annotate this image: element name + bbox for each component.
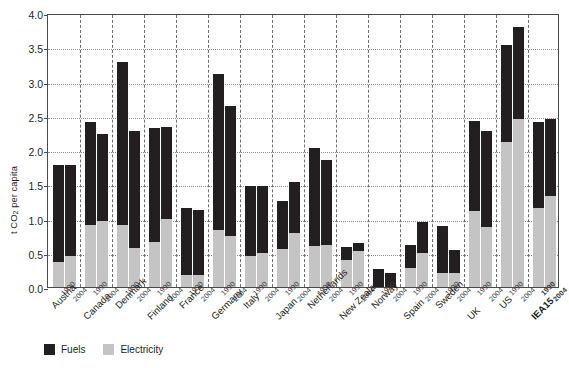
y-tick-mark	[44, 186, 48, 187]
bar-japan-2004	[289, 182, 300, 287]
bar-canada-1990	[85, 122, 96, 287]
legend-item-fuels: Fuels	[44, 344, 85, 355]
bar-segment-fuels	[225, 106, 236, 236]
group-separator	[80, 15, 81, 287]
bar-segment-fuels	[501, 45, 512, 143]
bar-segment-fuels	[97, 134, 108, 221]
bar-japan-1990	[277, 201, 288, 287]
group-separator	[496, 15, 497, 287]
bar-iea15-1990	[533, 122, 544, 287]
x-axis-category-label: IEA15	[529, 295, 556, 322]
bar-austria-2004	[65, 165, 76, 287]
y-tick-label: 2.0	[28, 146, 43, 158]
bar-segment-fuels	[513, 27, 524, 118]
y-tick-mark	[44, 255, 48, 256]
bar-segment-electricity	[437, 273, 448, 287]
plot-area: 0.00.51.01.52.02.53.03.54.0	[47, 14, 559, 288]
group-separator	[528, 15, 529, 287]
bar-segment-fuels	[533, 122, 544, 208]
bar-segment-electricity	[85, 225, 96, 287]
bar-segment-fuels	[321, 160, 332, 245]
bar-segment-fuels	[309, 148, 320, 246]
y-tick-label: 3.5	[28, 43, 43, 55]
x-axis-category-label: Japan	[273, 296, 299, 322]
bar-uk-1990	[469, 121, 480, 287]
bar-segment-fuels	[65, 165, 76, 256]
legend-label-fuels: Fuels	[61, 344, 85, 355]
y-tick-label: 1.5	[28, 180, 43, 192]
group-separator	[464, 15, 465, 287]
bar-segment-electricity	[277, 249, 288, 287]
bar-segment-electricity	[181, 275, 192, 287]
legend-item-electricity: Electricity	[103, 344, 163, 355]
group-separator	[400, 15, 401, 287]
legend-swatch-electricity	[103, 344, 114, 355]
bar-spain-2004	[417, 222, 428, 287]
bar-italy-1990	[245, 186, 256, 287]
bar-france-2004	[193, 210, 204, 287]
bar-segment-fuels	[149, 128, 160, 242]
x-axis-category-label: UK	[465, 305, 482, 322]
bar-uk-2004	[481, 131, 492, 287]
y-tick-label: 4.0	[28, 9, 43, 21]
group-separator	[272, 15, 273, 287]
bar-finland-2004	[161, 127, 172, 287]
bar-segment-fuels	[245, 186, 256, 257]
bar-segment-electricity	[117, 225, 128, 287]
bar-segment-electricity	[513, 119, 524, 288]
bar-us-1990	[501, 45, 512, 287]
bar-segment-fuels	[417, 222, 428, 254]
bar-us-2004	[513, 27, 524, 287]
y-tick-mark	[44, 15, 48, 16]
bar-segment-electricity	[53, 262, 64, 287]
bar-segment-fuels	[289, 182, 300, 233]
bar-finland-1990	[149, 128, 160, 287]
bar-segment-electricity	[161, 219, 172, 288]
bar-germany-2004	[225, 106, 236, 287]
bar-segment-fuels	[469, 121, 480, 211]
y-axis-title: t CO2 per capita	[9, 145, 19, 255]
gridline	[48, 49, 558, 50]
bar-segment-electricity	[545, 196, 556, 287]
bar-segment-fuels	[257, 186, 268, 254]
y-tick-mark	[44, 221, 48, 222]
bar-sweden-1990	[437, 226, 448, 287]
group-separator	[432, 15, 433, 287]
bar-segment-electricity	[533, 208, 544, 287]
bar-segment-fuels	[181, 208, 192, 275]
bar-spain-1990	[405, 245, 416, 287]
bar-segment-fuels	[449, 250, 460, 273]
y-tick-mark	[44, 289, 48, 290]
bar-netherlands-2004	[321, 160, 332, 287]
bar-segment-electricity	[213, 230, 224, 287]
bar-segment-fuels	[213, 74, 224, 230]
group-separator	[176, 15, 177, 287]
y-tick-label: 0.0	[28, 283, 43, 295]
bar-segment-electricity	[149, 242, 160, 287]
bar-segment-fuels	[193, 210, 204, 274]
bar-segment-fuels	[129, 131, 140, 248]
group-separator	[112, 15, 113, 287]
y-tick-label: 0.5	[28, 249, 43, 261]
legend-swatch-fuels	[44, 344, 55, 355]
group-separator	[336, 15, 337, 287]
legend-label-electricity: Electricity	[120, 344, 163, 355]
bar-italy-2004	[257, 186, 268, 287]
bar-segment-fuels	[341, 247, 352, 259]
group-separator	[304, 15, 305, 287]
bar-netherlands-1990	[309, 148, 320, 287]
y-tick-mark	[44, 84, 48, 85]
bar-segment-fuels	[277, 201, 288, 249]
bar-segment-fuels	[85, 122, 96, 225]
y-tick-label: 1.0	[28, 215, 43, 227]
bar-segment-electricity	[469, 211, 480, 287]
y-tick-mark	[44, 49, 48, 50]
bar-segment-fuels	[545, 119, 556, 196]
y-tick-label: 2.5	[28, 112, 43, 124]
y-tick-mark	[44, 118, 48, 119]
bar-segment-fuels	[405, 245, 416, 268]
bar-iea15-2004	[545, 119, 556, 287]
bar-denmark-2004	[129, 131, 140, 287]
chart-legend: Fuels Electricity	[44, 344, 163, 355]
